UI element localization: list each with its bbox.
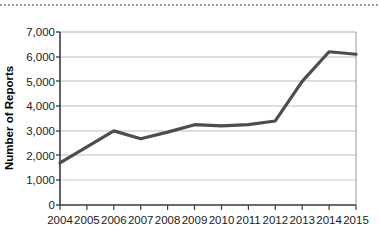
x-axis-ticks <box>60 205 356 210</box>
x-tick-label: 2009 <box>182 214 208 226</box>
y-tick-label: 1,000 <box>26 174 55 186</box>
y-tick-label: 3,000 <box>26 125 55 137</box>
x-tick-label: 2006 <box>101 214 127 226</box>
y-tick-label: 0 <box>49 199 55 211</box>
line-chart: Number of Reports 7,000 6,000 5,000 4,00… <box>0 0 380 230</box>
x-tick-label: 2008 <box>155 214 181 226</box>
x-tick-label: 2004 <box>47 214 73 226</box>
y-tick-label: 2,000 <box>26 150 55 162</box>
x-tick-label: 2013 <box>289 214 315 226</box>
x-tick-label: 2005 <box>74 214 100 226</box>
y-tick-label: 4,000 <box>26 100 55 112</box>
x-tick-label: 2015 <box>343 214 369 226</box>
y-tick-label: 5,000 <box>26 76 55 88</box>
x-tick-label: 2010 <box>209 214 235 226</box>
x-tick-label: 2011 <box>236 214 261 226</box>
chart-page: Number of Reports 7,000 6,000 5,000 4,00… <box>0 0 380 230</box>
y-tick-labels: 7,000 6,000 5,000 4,000 3,000 2,000 1,00… <box>26 26 55 211</box>
y-tick-label: 6,000 <box>26 51 55 63</box>
data-series-line <box>60 52 356 163</box>
x-tick-label: 2014 <box>316 214 342 226</box>
y-tick-label: 7,000 <box>26 26 55 38</box>
y-axis-title: Number of Reports <box>3 66 15 170</box>
x-tick-labels: 2004 2005 2006 2007 2008 2009 2010 2011 … <box>47 214 369 226</box>
x-tick-label: 2012 <box>263 214 289 226</box>
gridlines <box>60 32 356 180</box>
x-tick-label: 2007 <box>128 214 154 226</box>
